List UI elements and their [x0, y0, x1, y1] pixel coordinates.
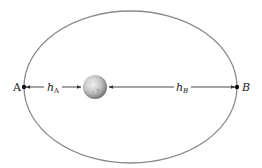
orbit-diagram: A B hA hB: [0, 0, 262, 168]
h-a-label: hA: [47, 81, 60, 95]
point-a-label: A: [12, 81, 22, 94]
point-b-dot: [235, 85, 239, 89]
point-a-dot: [22, 85, 26, 89]
h-b-label: hB: [176, 81, 188, 95]
point-b-label: B: [241, 81, 250, 94]
planet: [83, 75, 107, 99]
